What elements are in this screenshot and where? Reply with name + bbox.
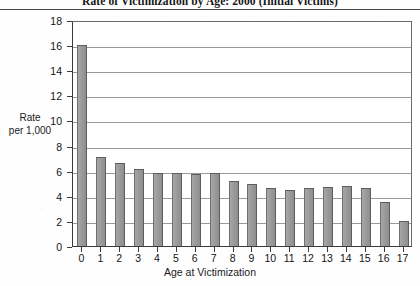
bar <box>191 174 201 246</box>
bar <box>285 190 295 247</box>
bar <box>172 173 182 246</box>
bar <box>304 188 314 246</box>
y-tick-label: 16 <box>36 40 62 52</box>
bar <box>96 157 106 246</box>
y-tick-mark <box>67 21 72 22</box>
x-tick-label: 16 <box>374 252 394 264</box>
plot-area <box>72 21 412 247</box>
y-tick-label: 10 <box>36 115 62 127</box>
x-tick-label: 2 <box>109 252 129 264</box>
bar <box>342 186 352 246</box>
bar <box>115 163 125 246</box>
y-tick-label: 14 <box>36 65 62 77</box>
x-tick-label: 9 <box>241 252 261 264</box>
x-tick-label: 13 <box>317 252 337 264</box>
x-tick-label: 8 <box>223 252 243 264</box>
y-tick-label: 8 <box>36 141 62 153</box>
x-tick-label: 7 <box>204 252 224 264</box>
y-tick-label: 4 <box>36 191 62 203</box>
y-tick-label: 2 <box>36 216 62 228</box>
bar <box>380 202 390 246</box>
x-tick-label: 1 <box>90 252 110 264</box>
bar-series <box>73 22 411 246</box>
x-tick-label: 11 <box>279 252 299 264</box>
y-tick-mark <box>67 121 72 122</box>
y-tick-mark <box>67 222 72 223</box>
x-tick-label: 12 <box>298 252 318 264</box>
bar <box>266 188 276 246</box>
y-tick-label: 6 <box>36 166 62 178</box>
x-tick-label: 0 <box>71 252 91 264</box>
x-tick-label: 5 <box>166 252 186 264</box>
y-tick-mark <box>67 46 72 47</box>
bar <box>399 221 409 246</box>
x-tick-label: 6 <box>185 252 205 264</box>
bar <box>247 184 257 246</box>
bar <box>229 181 239 246</box>
x-tick-label: 4 <box>147 252 167 264</box>
title-divider-rule <box>0 9 420 10</box>
y-tick-mark <box>67 96 72 97</box>
bar <box>361 188 371 246</box>
bar <box>134 169 144 246</box>
y-tick-mark <box>67 147 72 148</box>
y-tick-mark <box>67 71 72 72</box>
bar <box>153 173 163 246</box>
x-tick-label: 3 <box>128 252 148 264</box>
y-tick-label: 12 <box>36 90 62 102</box>
bar <box>210 173 220 246</box>
y-tick-label: 18 <box>36 15 62 27</box>
y-tick-mark <box>67 247 72 248</box>
y-tick-mark <box>67 197 72 198</box>
x-tick-label: 15 <box>355 252 375 264</box>
bar <box>77 45 87 246</box>
y-tick-mark <box>67 172 72 173</box>
x-axis-title: Age at Victimization <box>0 266 420 278</box>
chart-title: Rate of Victimization by Age: 2000 (Init… <box>0 0 420 7</box>
x-tick-label: 10 <box>260 252 280 264</box>
y-tick-label: 0 <box>36 241 62 253</box>
x-tick-label: 14 <box>336 252 356 264</box>
chart-figure: Rate of Victimization by Age: 2000 (Init… <box>0 0 420 286</box>
x-tick-label: 17 <box>393 252 413 264</box>
bar <box>323 187 333 246</box>
